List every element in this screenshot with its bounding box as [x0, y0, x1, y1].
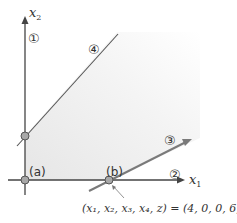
constraint-label-1: ①	[28, 31, 40, 46]
constraint-label-2: ②	[169, 167, 181, 182]
feasible-region	[25, 32, 200, 180]
constraint-label-3: ③	[164, 133, 176, 148]
pointer-arrow-head-icon	[112, 185, 116, 190]
point-x2-intercept	[21, 132, 29, 140]
x2-axis-arrow-icon	[22, 16, 29, 24]
point-a-label: (a)	[29, 165, 46, 179]
point-a	[21, 176, 29, 184]
x2-axis-label: x2	[29, 5, 41, 22]
lp-diagram: x2 x1 ① ④ ③ ② (a) (b) (x₁, x₂, x₃, x₄, z…	[0, 0, 237, 223]
constraint-label-4: ④	[88, 42, 100, 57]
point-b-label: (b)	[106, 165, 123, 179]
x1-axis-label: x1	[189, 172, 201, 189]
solution-annotation: (x₁, x₂, x₃, x₄, z) = (4, 0, 0, 6, 8)	[82, 202, 237, 215]
